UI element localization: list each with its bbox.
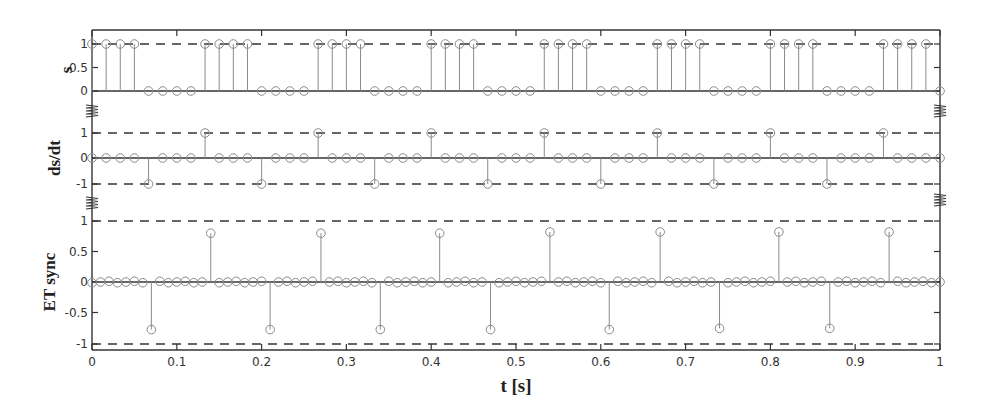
x-tick-label: 0.3 <box>337 355 356 369</box>
x-tick-label: 0.2 <box>252 355 271 369</box>
y-tick-label-1: 1 <box>80 37 88 51</box>
y-tick-label-1: 1 <box>80 214 88 228</box>
y-tick-label-0: 0 <box>80 151 88 165</box>
x-axis-label: t [s] <box>500 375 531 396</box>
x-tick-label: 0.1 <box>167 355 186 369</box>
x-tick-label: 0.4 <box>422 355 441 369</box>
plot-area: 00.10.20.30.40.50.60.70.80.9110.5010-110… <box>65 30 946 369</box>
y-tick-label-neg1: -1 <box>76 337 88 351</box>
y-axis-label-et-sync: ET sync <box>40 252 59 311</box>
x-tick-label: 0.5 <box>506 355 525 369</box>
y-axis-label-dsdt: ds/dt <box>45 140 64 176</box>
x-tick-label: 0.6 <box>591 355 610 369</box>
y-tick-label-0: 0 <box>80 84 88 98</box>
y-tick-label-0: 0 <box>80 275 88 289</box>
x-tick-label: 0 <box>88 355 96 369</box>
y-axis-label-s: s <box>57 66 76 73</box>
x-tick-label: 0.8 <box>761 355 780 369</box>
y-tick-label-neg0.5: -0.5 <box>65 306 88 320</box>
y-tick-label-neg1: -1 <box>76 177 88 191</box>
x-tick-label: 0.9 <box>846 355 865 369</box>
stem-plot-figure: 00.10.20.30.40.50.60.70.80.9110.5010-110… <box>0 0 984 412</box>
y-tick-label-0.5: 0.5 <box>69 245 88 259</box>
x-tick-label: 1 <box>936 355 944 369</box>
y-tick-label-1: 1 <box>80 126 88 140</box>
x-tick-label: 0.7 <box>676 355 695 369</box>
